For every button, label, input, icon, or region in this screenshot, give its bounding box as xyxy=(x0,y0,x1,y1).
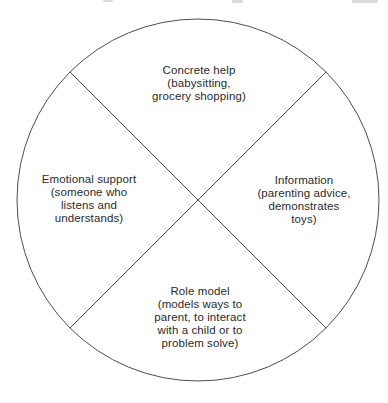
quadrant-description-line: grocery shopping) xyxy=(152,90,246,103)
support-types-circle-diagram: Concrete help (babysitting, grocery shop… xyxy=(0,0,388,403)
quadrant-description-line: (babysitting, xyxy=(152,77,246,90)
quadrant-description-line: (parenting advice, xyxy=(257,187,350,200)
quadrant-description-line: problem solve) xyxy=(154,337,245,350)
quadrant-bottom-role-model: Role model (models ways to parent, to in… xyxy=(154,285,245,350)
quadrant-description-line: listens and xyxy=(42,199,136,212)
quadrant-right-information: Information (parenting advice, demonstra… xyxy=(257,174,350,226)
quadrant-description-line: demonstrates xyxy=(257,200,350,213)
quadrant-description-line: (models ways to xyxy=(154,298,245,311)
quadrant-label: Information xyxy=(257,174,350,187)
quadrant-description-line: (someone who xyxy=(42,186,136,199)
cropped-text-artifact xyxy=(232,0,243,3)
quadrant-left-emotional-support: Emotional support (someone who listens a… xyxy=(42,173,136,225)
cropped-text-artifact xyxy=(103,0,113,2)
quadrant-description-line: parent, to interact xyxy=(154,311,245,324)
quadrant-description-line: understands) xyxy=(42,212,136,225)
quadrant-description-line: with a child or to xyxy=(154,324,245,337)
quadrant-description-line: toys) xyxy=(257,213,350,226)
cropped-text-artifact xyxy=(352,0,378,3)
quadrant-label: Role model xyxy=(154,285,245,298)
quadrant-top-concrete-help: Concrete help (babysitting, grocery shop… xyxy=(152,64,246,103)
quadrant-label: Concrete help xyxy=(152,64,246,77)
quadrant-label: Emotional support xyxy=(42,173,136,186)
